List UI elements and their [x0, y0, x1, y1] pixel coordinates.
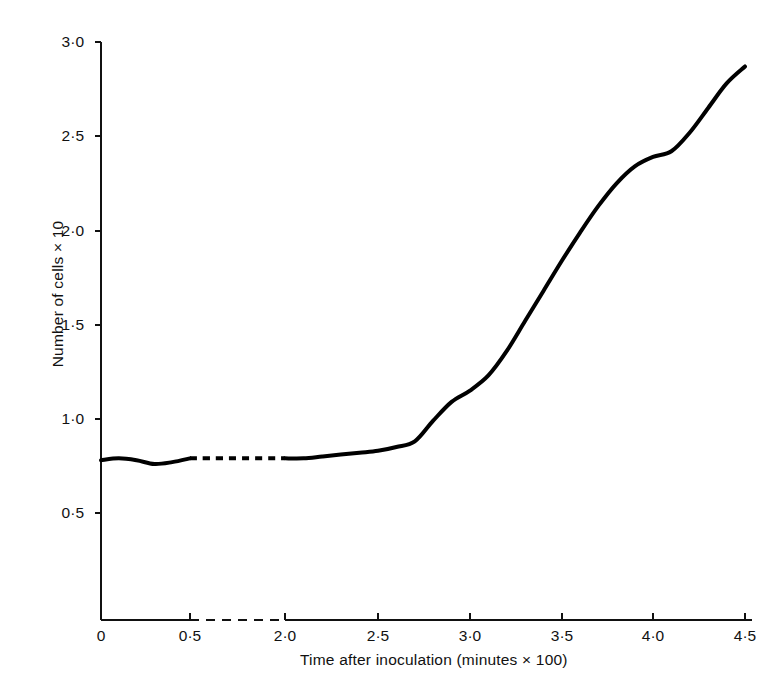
- data-curve-lag-phase: [101, 458, 190, 464]
- x-tick-label-3-5: 3·5: [535, 627, 589, 645]
- x-tick-marks: [101, 613, 745, 620]
- x-axis-title: Time after inoculation (minutes × 100): [300, 651, 760, 669]
- data-curve-growth-phase: [285, 66, 745, 458]
- y-tick-label-0-5: 0·5: [30, 504, 84, 522]
- chart-canvas: [0, 0, 783, 686]
- x-tick-label-2-0: 2·0: [258, 627, 312, 645]
- x-tick-label-4-5: 4·5: [718, 627, 772, 645]
- x-tick-label-0: 0: [74, 627, 128, 645]
- y-tick-label-3-0: 3·0: [30, 33, 84, 51]
- x-tick-label-0-5: 0·5: [163, 627, 217, 645]
- x-tick-label-2-5: 2·5: [351, 627, 405, 645]
- x-tick-label-3-0: 3·0: [443, 627, 497, 645]
- y-tick-label-2-5: 2·5: [30, 127, 84, 145]
- x-tick-label-4-0: 4·0: [626, 627, 680, 645]
- y-axis-title: Number of cells × 10: [49, 174, 67, 414]
- growth-curve-figure: 3·0 2·5 2·0 1·5 1·0 0·5 0 0·5 2·0 2·5 3·…: [0, 0, 783, 686]
